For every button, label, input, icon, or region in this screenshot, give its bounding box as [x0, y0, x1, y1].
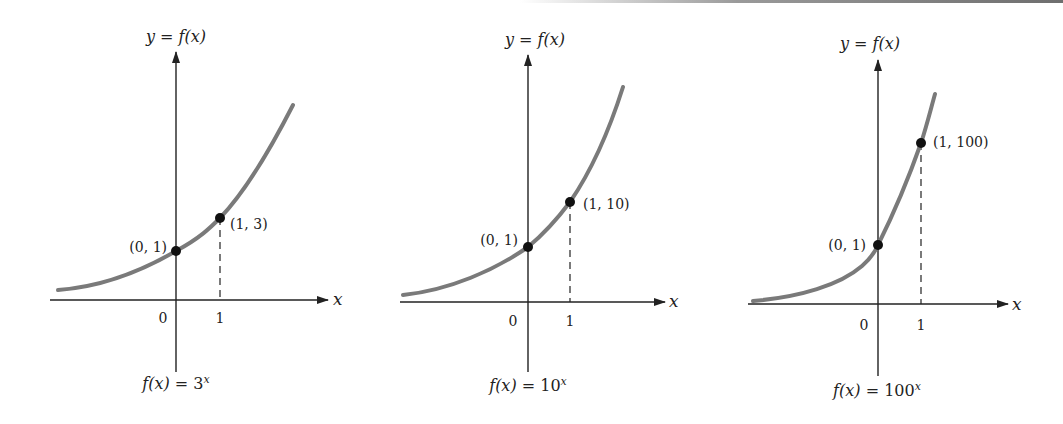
- caption: f(x) = 100x: [832, 380, 922, 400]
- tick-1: 1: [216, 310, 225, 326]
- y-axis-label: y = f(x): [504, 30, 565, 49]
- chart-100-pow-x: y = f(x) x 0 1 (0, 1) (1, 100) f(x) = 10…: [748, 34, 1022, 400]
- exponential-graphs: y = f(x) x 0 1 (0, 1) (1, 3) f(x) = 3x y…: [0, 0, 1063, 424]
- label-point-1-10: (1, 10): [583, 196, 630, 212]
- label-point-0-1: (0, 1): [129, 239, 167, 255]
- label-point-0-1: (0, 1): [480, 232, 518, 248]
- label-point-1-100: (1, 100): [933, 134, 988, 150]
- tick-1: 1: [566, 313, 575, 329]
- point-0-1: [523, 242, 533, 252]
- caption: f(x) = 10x: [488, 375, 567, 395]
- tick-0: 0: [860, 317, 869, 333]
- label-point-1-3: (1, 3): [230, 216, 268, 232]
- point-0-1: [873, 240, 883, 250]
- x-axis-label: x: [333, 289, 343, 309]
- x-axis-label: x: [669, 291, 679, 311]
- y-axis-label: y = f(x): [839, 34, 900, 53]
- point-0-1: [171, 246, 181, 256]
- caption: f(x) = 3x: [141, 373, 210, 393]
- point-1-100: [916, 138, 926, 148]
- label-point-0-1: (0, 1): [828, 237, 866, 253]
- curve: [403, 87, 623, 295]
- chart-10-pow-x: y = f(x) x 0 1 (0, 1) (1, 10) f(x) = 10x: [400, 30, 679, 395]
- x-axis-label: x: [1012, 294, 1022, 314]
- point-1-3: [215, 213, 225, 223]
- tick-0: 0: [159, 310, 168, 326]
- tick-1: 1: [917, 317, 926, 333]
- tick-0: 0: [509, 313, 518, 329]
- chart-3-pow-x: y = f(x) x 0 1 (0, 1) (1, 3) f(x) = 3x: [50, 27, 343, 393]
- y-axis-label: y = f(x): [145, 27, 206, 46]
- curve: [753, 94, 935, 301]
- point-1-10: [565, 197, 575, 207]
